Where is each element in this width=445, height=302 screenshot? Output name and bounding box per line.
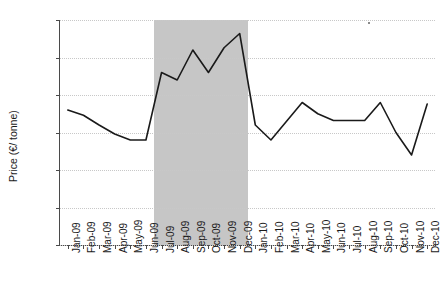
x-tick-label: May-10 [322,220,332,253]
x-tick-label: Jun-10 [337,222,347,253]
price-series-line [60,20,435,245]
y-tick-mark [56,208,60,209]
x-tick-mark [162,245,163,249]
x-tick-mark [287,245,288,249]
x-tick-mark [83,245,84,249]
x-tick-mark [240,245,241,249]
x-tick-label: Mar-09 [103,221,113,253]
y-tick-mark [56,170,60,171]
x-tick-label: Sep-09 [197,221,207,253]
x-tick-mark [224,245,225,249]
x-tick-label: Oct-09 [212,223,222,253]
x-tick-label: Jul-09 [166,226,176,253]
x-tick-mark [427,245,428,249]
x-tick-label: Aug-09 [181,221,191,253]
x-tick-label: Dec-09 [244,221,254,253]
x-tick-mark [130,245,131,249]
plot-area [60,20,435,245]
x-tick-mark [412,245,413,249]
x-tick-label: Nov-10 [416,221,426,253]
image-speck-artifact [368,22,370,24]
x-tick-mark [146,245,147,249]
x-tick-label: Aug-10 [369,221,379,253]
x-tick-label: Mar-10 [291,221,301,253]
y-tick-mark [56,133,60,134]
x-tick-mark [349,245,350,249]
x-tick-mark [365,245,366,249]
x-tick-mark [318,245,319,249]
x-tick-label: May-09 [134,220,144,253]
x-tick-mark [333,245,334,249]
series-polyline [68,34,427,156]
y-tick-mark [56,20,60,21]
x-tick-mark [380,245,381,249]
x-tick-label: Feb-10 [275,221,285,253]
x-tick-mark [271,245,272,249]
x-tick-label: Apr-10 [306,223,316,253]
x-tick-label: Jan-09 [72,222,82,253]
x-tick-label: Dec-10 [431,221,441,253]
y-tick-mark [56,95,60,96]
x-tick-mark [302,245,303,249]
x-tick-label: Oct-10 [400,223,410,253]
x-tick-mark [99,245,100,249]
x-tick-label: Feb-09 [87,221,97,253]
y-axis-title: Price (€/ tonne) [8,110,19,182]
x-tick-mark [115,245,116,249]
x-tick-mark [396,245,397,249]
x-tick-label: Jul-10 [353,226,363,253]
x-tick-mark [177,245,178,249]
x-tick-label: Sep-10 [384,221,394,253]
y-tick-mark [56,58,60,59]
y-tick-mark [56,245,60,246]
x-tick-mark [68,245,69,249]
x-tick-label: Nov-09 [228,221,238,253]
x-tick-label: Jun-09 [150,222,160,253]
x-tick-mark [255,245,256,249]
x-tick-label: Jan-10 [259,222,269,253]
x-tick-mark [208,245,209,249]
price-line-chart: Price (€/ tonne) 859095100105110115 Jan-… [0,0,445,302]
x-tick-label: Apr-09 [119,223,129,253]
x-tick-mark [193,245,194,249]
